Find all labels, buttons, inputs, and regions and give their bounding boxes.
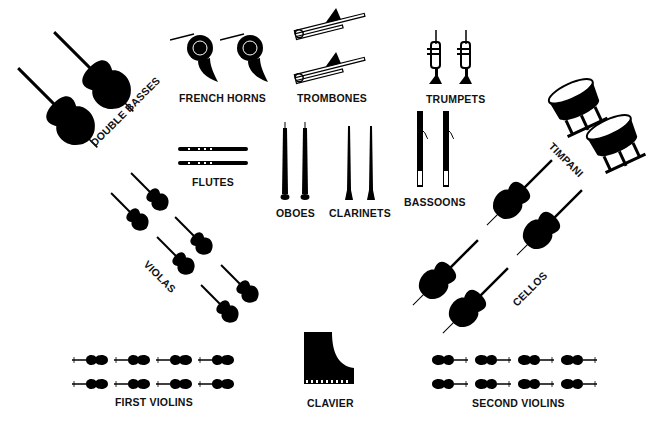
- clarinet-icon: [344, 126, 354, 202]
- trombones-label: TROMBONES: [297, 92, 367, 104]
- bassoon-icon: [414, 111, 428, 189]
- flute-icon: [178, 160, 250, 166]
- cello-icon: [434, 262, 514, 342]
- second-violins-label: SECOND VIOLINS: [472, 397, 565, 409]
- oboe-icon: [300, 122, 310, 202]
- clarinets-label: CLARINETS: [329, 207, 391, 219]
- trombone-icon: [290, 52, 370, 86]
- first-violins-group: [72, 352, 240, 392]
- trumpets-label: TRUMPETS: [426, 93, 485, 105]
- clavier-label: CLAVIER: [307, 397, 354, 409]
- oboes-label: OBOES: [276, 207, 315, 219]
- oboe-icon: [280, 122, 290, 202]
- viola-icon: [198, 282, 248, 332]
- trombone-icon: [290, 8, 370, 42]
- viola-icon: [108, 190, 158, 240]
- flutes-label: FLUTES: [192, 176, 234, 188]
- bassoons-label: BASSOONS: [404, 196, 466, 208]
- second-violins-group: [432, 352, 604, 392]
- trumpet-icon: [455, 30, 473, 86]
- flute-icon: [178, 146, 250, 152]
- clavier-icon: [302, 332, 356, 388]
- trumpet-icon: [425, 30, 443, 86]
- french-horns-label: FRENCH HORNS: [179, 92, 266, 104]
- cellos-label: CELLOS: [510, 269, 549, 308]
- french-horn-icon: [170, 26, 220, 84]
- timpani-icon: [584, 112, 648, 174]
- french-horn-icon: [220, 26, 270, 84]
- bassoon-icon: [440, 111, 454, 189]
- first-violins-label: FIRST VIOLINS: [115, 396, 193, 408]
- cello-icon: [508, 184, 588, 264]
- clarinet-icon: [366, 126, 376, 202]
